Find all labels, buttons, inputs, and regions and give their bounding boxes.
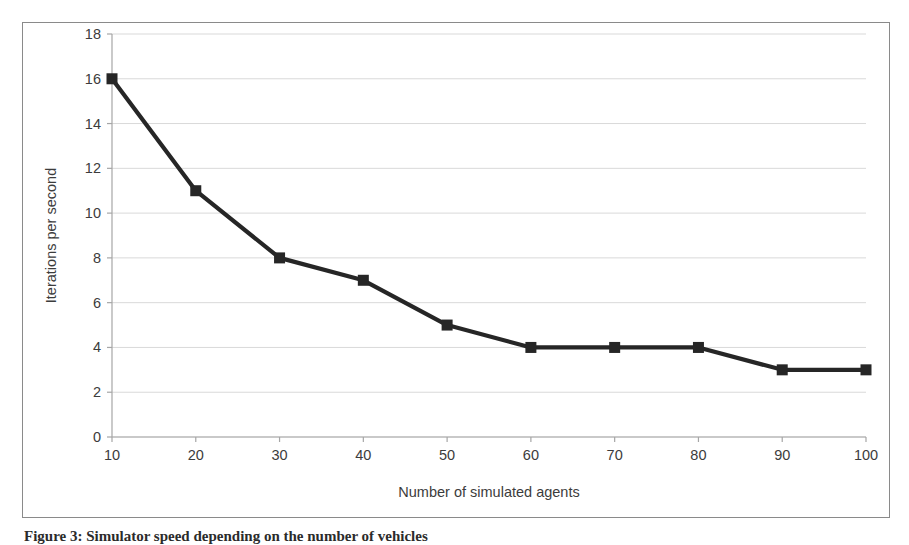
data-point-marker xyxy=(442,320,453,331)
y-tick-label: 4 xyxy=(93,339,101,355)
y-tick-marks xyxy=(107,34,112,437)
x-tick-label: 20 xyxy=(188,447,204,463)
data-point-marker xyxy=(693,342,704,353)
chart-frame: 024681012141618 102030405060708090100 It… xyxy=(22,22,890,518)
y-tick-label: 12 xyxy=(85,160,101,176)
y-tick-label: 18 xyxy=(85,26,101,42)
x-axis-tick-labels: 102030405060708090100 xyxy=(104,447,878,463)
y-tick-label: 6 xyxy=(93,295,101,311)
data-point-marker xyxy=(861,364,872,375)
data-point-marker xyxy=(274,252,285,263)
x-tick-label: 70 xyxy=(607,447,623,463)
data-point-marker xyxy=(358,275,369,286)
y-tick-label: 14 xyxy=(85,116,101,132)
y-axis-title: Iterations per second xyxy=(43,168,59,303)
figure-caption: Figure 3: Simulator speed depending on t… xyxy=(24,528,884,545)
x-tick-label: 60 xyxy=(523,447,539,463)
x-tick-label: 100 xyxy=(854,447,878,463)
data-series-line xyxy=(112,79,866,370)
x-tick-label: 40 xyxy=(355,447,371,463)
data-point-marker xyxy=(609,342,620,353)
series-polyline xyxy=(112,79,866,370)
x-tick-label: 10 xyxy=(104,447,120,463)
grid-lines xyxy=(112,34,866,437)
x-axis-title: Number of simulated agents xyxy=(398,484,579,500)
line-chart: 024681012141618 102030405060708090100 It… xyxy=(23,23,889,517)
data-point-marker xyxy=(190,185,201,196)
x-tick-label: 80 xyxy=(690,447,706,463)
data-point-marker xyxy=(525,342,536,353)
x-tick-label: 50 xyxy=(439,447,455,463)
x-tick-marks xyxy=(112,437,866,442)
x-tick-label: 30 xyxy=(271,447,287,463)
figure-page: 024681012141618 102030405060708090100 It… xyxy=(0,0,909,545)
y-tick-label: 16 xyxy=(85,71,101,87)
y-tick-label: 8 xyxy=(93,250,101,266)
y-tick-label: 10 xyxy=(85,205,101,221)
x-tick-label: 90 xyxy=(774,447,790,463)
data-point-marker xyxy=(107,73,118,84)
data-point-marker xyxy=(777,364,788,375)
data-series-markers xyxy=(107,73,872,375)
y-tick-label: 2 xyxy=(93,384,101,400)
y-tick-label: 0 xyxy=(93,429,101,445)
y-axis-tick-labels: 024681012141618 xyxy=(85,26,101,445)
